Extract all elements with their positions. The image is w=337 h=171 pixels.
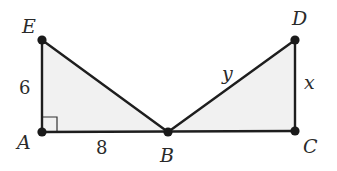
side-label-ab: 8 (96, 137, 107, 158)
label-c: C (303, 135, 318, 157)
label-a: A (15, 131, 31, 153)
side-label-bd: y (221, 62, 233, 84)
point-b (163, 127, 172, 136)
label-e: E (21, 15, 36, 37)
point-d (290, 35, 299, 44)
label-b: B (159, 144, 174, 166)
geometry-diagram: E A B C D 6 8 y x (0, 0, 337, 171)
point-a (37, 127, 46, 136)
side-label-ea: 6 (19, 77, 30, 98)
label-d: D (291, 7, 307, 29)
point-e (37, 35, 46, 44)
side-label-dc: x (304, 71, 315, 93)
point-c (290, 126, 299, 135)
